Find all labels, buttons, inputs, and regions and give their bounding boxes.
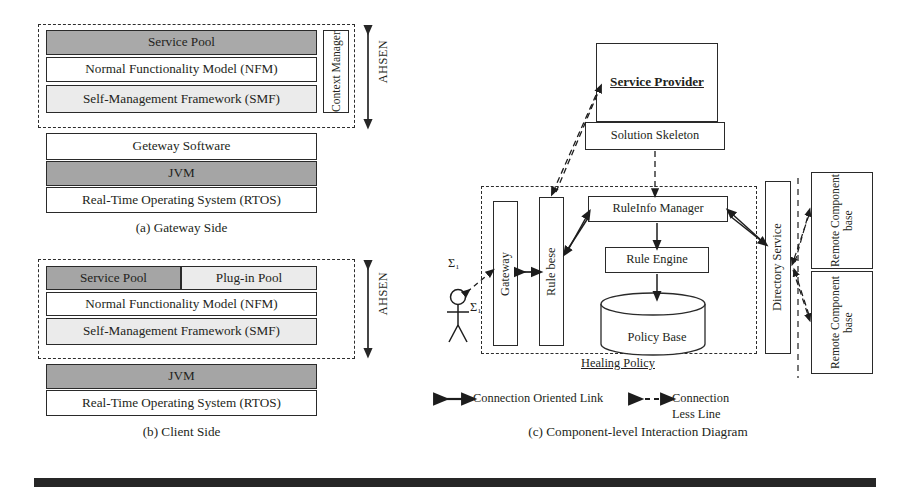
actor-label-upper: Σ₁: [448, 256, 460, 271]
panel-c-caption: (c) Component-level Interaction Diagram: [468, 424, 808, 440]
legend-item-connection-oriented: Connection Oriented Link: [473, 391, 603, 406]
page-bottom-rule: [34, 478, 876, 487]
figure-page: Service Pool Normal Functionality Model …: [0, 0, 910, 495]
legend-item-connection-less: Connection Less Line: [672, 391, 752, 422]
panel-c-connectors: [0, 0, 910, 495]
actor-label-lower: Σ₁: [470, 300, 482, 315]
